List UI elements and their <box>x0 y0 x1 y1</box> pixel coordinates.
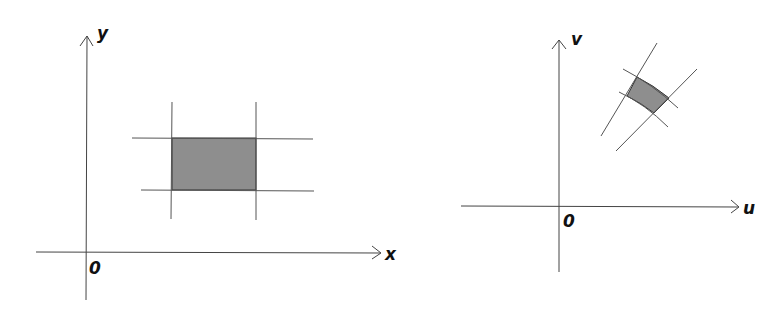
rectangle-region <box>172 138 256 190</box>
xy-plane: x y 0 <box>36 23 397 300</box>
x-axis <box>36 252 380 253</box>
slanted-line-right <box>616 69 697 151</box>
origin-label: 0 <box>563 211 575 231</box>
coordinate-transform-figure: x y 0 u v 0 <box>0 0 784 318</box>
x-axis-label: x <box>384 244 397 264</box>
v-axis-label: v <box>571 29 583 49</box>
horizontal-line-top <box>132 138 313 139</box>
u-axis <box>461 206 738 207</box>
vertical-line-left <box>171 102 172 219</box>
y-axis-label: y <box>97 23 109 43</box>
u-axis-label: u <box>743 198 755 218</box>
uv-plane: u v 0 <box>461 29 755 272</box>
origin-label: 0 <box>89 258 101 278</box>
horizontal-line-bottom <box>141 190 314 191</box>
y-axis <box>86 36 87 300</box>
